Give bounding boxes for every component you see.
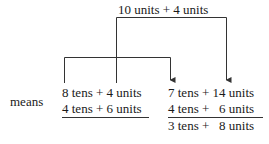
right-difference: 3 tens + 8 units: [168, 119, 254, 133]
left-minuend: 8 tens + 4 units: [62, 86, 142, 100]
right-subtrahend: 4 tens + 6 units: [168, 102, 254, 116]
left-subtrahend: 4 tens + 6 units: [62, 102, 142, 116]
right-minuend: 7 tens + 14 units: [168, 86, 254, 100]
left-sum-rule: [62, 117, 149, 118]
ten-units-arrow: [117, 18, 227, 84]
means-label: means: [10, 95, 43, 109]
tens-borrow-arrow: [65, 58, 171, 84]
